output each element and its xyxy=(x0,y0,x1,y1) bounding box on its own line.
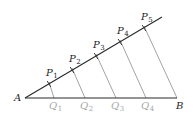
label-q2: Q2 xyxy=(80,100,93,113)
parallel-line-5 xyxy=(144,26,177,98)
label-p2: P2 xyxy=(68,53,81,66)
label-b: B xyxy=(175,100,183,111)
label-q3: Q3 xyxy=(111,100,124,113)
parallel-line-3 xyxy=(96,54,116,98)
equal-division-diagram: P1P2P3P4P5ABQ1Q2Q3Q4 xyxy=(0,0,194,119)
label-q1: Q1 xyxy=(49,100,62,113)
label-p1: P1 xyxy=(45,67,58,80)
label-q4: Q4 xyxy=(141,100,155,113)
parallel-line-4 xyxy=(120,40,146,98)
label-p5: P5 xyxy=(140,11,153,24)
label-p4: P4 xyxy=(116,25,129,38)
label-a: A xyxy=(13,92,21,103)
diagram-canvas: P1P2P3P4P5ABQ1Q2Q3Q4 xyxy=(0,0,194,119)
ray-from-a xyxy=(25,17,162,98)
label-p3: P3 xyxy=(92,39,105,52)
